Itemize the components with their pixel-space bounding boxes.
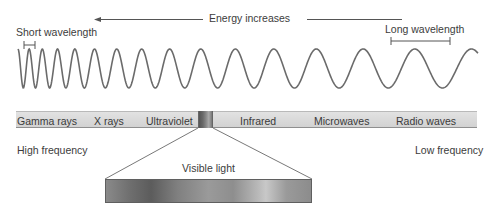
spectrum-band: Gamma rays X rays Ultraviolet Infrared M… [16,111,477,128]
band-microwaves: Microwaves [314,115,369,127]
long-wavelength-bracket [391,37,450,45]
visible-light-label: Visible light [182,163,235,174]
short-wavelength-label: Short wavelength [16,27,97,38]
short-wavelength-bracket [24,41,35,49]
low-frequency-label: Low frequency [415,145,483,156]
band-gamma-rays: Gamma rays [17,115,77,127]
band-infrared: Infrared [240,115,276,127]
band-radio-waves: Radio waves [396,115,456,127]
band-x-rays: X rays [94,115,124,127]
arrowhead-left-icon [94,17,101,22]
wave-line [18,49,478,88]
band-ultraviolet: Ultraviolet [146,115,193,127]
visible-light-bar [105,179,312,203]
visible-light-strip [198,111,213,128]
energy-increases-label: Energy increases [209,13,290,24]
long-wavelength-label: Long wavelength [385,24,464,35]
high-frequency-label: High frequency [17,145,88,156]
